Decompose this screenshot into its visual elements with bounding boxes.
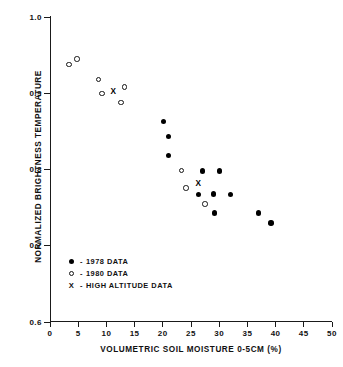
x-tick-label: 0 [38, 329, 62, 338]
legend-label: 1978 DATA [86, 257, 128, 266]
data-point [268, 220, 273, 225]
x-tick-mark [219, 322, 220, 327]
x-tick-label: 10 [94, 329, 118, 338]
data-point [74, 56, 79, 61]
legend-item: -1980 DATA [66, 267, 173, 279]
x-tick-mark [275, 322, 276, 327]
data-point [196, 192, 201, 197]
data-point [66, 62, 71, 67]
x-tick-label: 30 [207, 329, 231, 338]
x-tick-label: 50 [320, 329, 343, 338]
data-point [228, 192, 233, 197]
x-tick-mark [162, 322, 163, 327]
scatter-plot-figure: NORMALIZED BRIGHTNESS TEMPERATURE VOLUME… [0, 0, 343, 367]
legend-item: -1978 DATA [66, 255, 173, 267]
data-point [200, 168, 205, 173]
x-tick-label: 35 [235, 329, 259, 338]
data-point [202, 201, 207, 206]
data-point [211, 191, 216, 196]
x-tick-label: 5 [66, 329, 90, 338]
data-point [179, 168, 184, 173]
y-tick-label: 0.8 [14, 165, 42, 174]
y-tick-label: 0.7 [14, 241, 42, 250]
data-point [166, 153, 171, 158]
x-tick-label: 45 [292, 329, 316, 338]
x-tick-label: 15 [123, 329, 147, 338]
y-tick-label: 1.0 [14, 13, 42, 22]
x-tick-mark [191, 322, 192, 327]
x-tick-label: 20 [151, 329, 175, 338]
chart-legend: -1978 DATA-1980 DATAX-HIGH ALTITUDE DATA [66, 255, 173, 291]
data-point [96, 77, 101, 82]
y-tick-label: 0.6 [14, 318, 42, 327]
x-axis-label: VOLUMETRIC SOIL MOISTURE 0-5CM (%) [50, 345, 332, 354]
data-point [256, 210, 261, 215]
x-tick-label: 40 [264, 329, 288, 338]
filled-circle-icon [66, 259, 77, 264]
data-point: X [109, 87, 118, 96]
legend-dash: - [77, 281, 86, 290]
x-tick-mark [332, 322, 333, 327]
data-point [122, 84, 127, 89]
data-point [99, 91, 104, 96]
x-tick-mark [134, 322, 135, 327]
x-tick-mark [247, 322, 248, 327]
legend-dash: - [77, 257, 86, 266]
x-tick-mark [50, 322, 51, 327]
data-point [166, 134, 171, 139]
open-circle-icon [66, 271, 77, 276]
y-tick-label: 0.9 [14, 89, 42, 98]
x-tick-mark [106, 322, 107, 327]
data-point [161, 119, 166, 124]
x-tick-mark [303, 322, 304, 327]
data-point [212, 210, 217, 215]
data-point [217, 168, 222, 173]
legend-dash: - [77, 269, 86, 278]
x-tick-mark [78, 322, 79, 327]
legend-item: X-HIGH ALTITUDE DATA [66, 279, 173, 291]
data-point [118, 100, 123, 105]
x-tick-label: 25 [179, 329, 203, 338]
legend-label: 1980 DATA [86, 269, 128, 278]
x-marker-icon: X [66, 282, 77, 289]
data-point [183, 185, 188, 190]
legend-label: HIGH ALTITUDE DATA [86, 281, 173, 290]
data-point: X [194, 179, 203, 188]
